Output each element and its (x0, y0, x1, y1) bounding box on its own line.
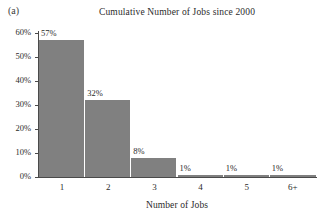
bar-value-label: 8% (133, 146, 144, 157)
chart-figure: { "figure": { "panel_label": "(a)", "bac… (0, 0, 328, 223)
bar-group: 57% (39, 33, 85, 177)
x-axis-line (38, 177, 317, 178)
y-axis-tick-mark (35, 177, 38, 178)
y-axis-tick-mark (35, 57, 38, 58)
bar-group: 32% (85, 33, 131, 177)
x-axis-tick-label: 3 (131, 181, 177, 194)
x-axis-tick-label: 6+ (270, 181, 316, 194)
x-axis-tick-label: 2 (85, 181, 131, 194)
x-axis-tick-label: 1 (39, 181, 85, 194)
x-axis-title: Number of Jobs (38, 199, 316, 211)
y-axis-tick-mark (35, 129, 38, 130)
y-axis-tick-label: 0% (20, 171, 31, 182)
bar (85, 100, 131, 177)
bar-value-label: 1% (226, 163, 237, 174)
bar-group: 1% (178, 33, 224, 177)
bar (39, 40, 85, 177)
panel-label: (a) (8, 5, 19, 17)
bar-value-label: 1% (272, 163, 283, 174)
bar (270, 175, 316, 177)
y-axis-tick-label: 20% (15, 123, 31, 134)
bar-group: 1% (270, 33, 316, 177)
bar-value-label: 1% (180, 163, 191, 174)
x-axis-tick-label: 5 (224, 181, 270, 194)
bars-layer: 57%32%8%1%1%1% (39, 33, 316, 177)
bar-group: 1% (224, 33, 270, 177)
y-axis-tick-label: 60% (15, 27, 31, 38)
y-axis-tick-mark (35, 33, 38, 34)
x-axis-tick-label: 4 (178, 181, 224, 194)
y-axis-tick-label: 10% (15, 147, 31, 158)
bar (131, 158, 177, 177)
y-axis-tick-mark (35, 81, 38, 82)
y-axis-tick-label: 30% (15, 99, 31, 110)
x-axis-tick-labels: 123456+ (39, 181, 316, 195)
y-axis-tick-label: 40% (15, 75, 31, 86)
bar-value-label: 57% (41, 28, 57, 39)
y-axis-tick-label: 50% (15, 51, 31, 62)
bar (178, 175, 224, 177)
bar-group: 8% (131, 33, 177, 177)
y-axis-tick-mark (35, 105, 38, 106)
bar-value-label: 32% (87, 88, 103, 99)
bar (224, 175, 270, 177)
chart-title: Cumulative Number of Jobs since 2000 (38, 6, 316, 18)
y-axis-tick-mark (35, 153, 38, 154)
